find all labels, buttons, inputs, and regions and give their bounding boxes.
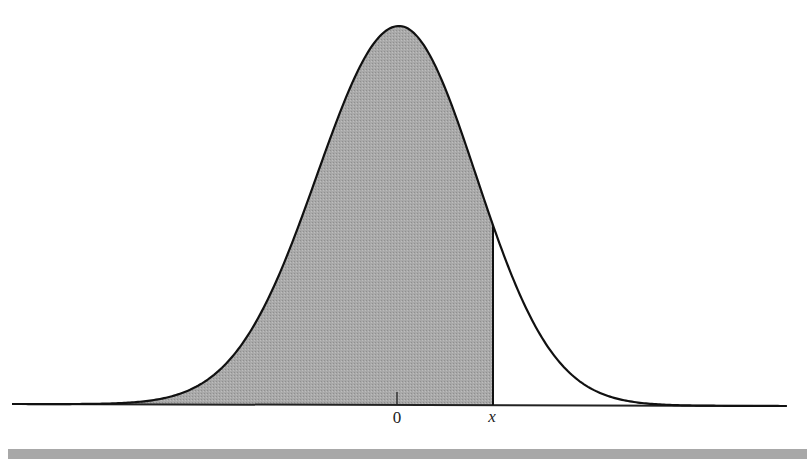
tick-label-x: x: [488, 407, 496, 427]
shaded-area: [12, 26, 493, 405]
tick-label-zero: 0: [393, 408, 402, 428]
bottom-bar: [8, 449, 807, 459]
normal-distribution-chart: [0, 0, 807, 459]
